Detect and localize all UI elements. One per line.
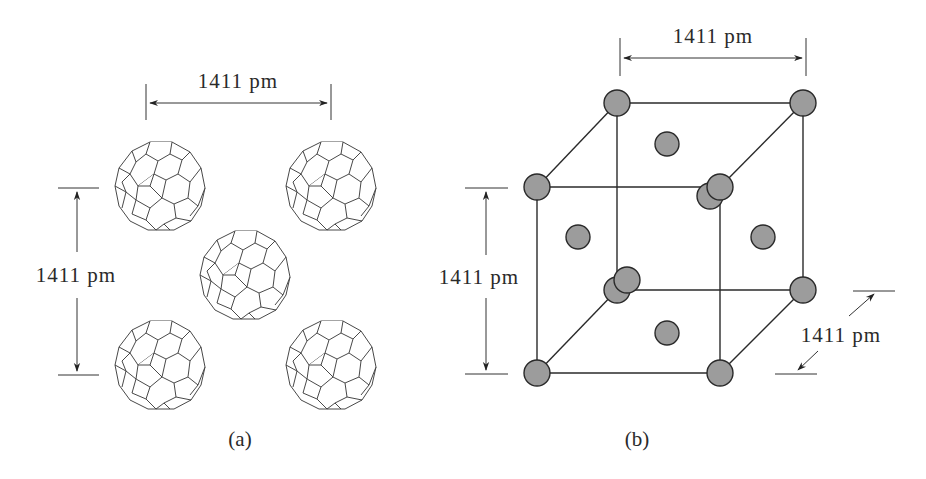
panel-a-top-dimension-label: 1411 pm <box>198 69 278 93</box>
panel-b-top-dimension: 1411 pm <box>620 24 806 76</box>
atom-front-top-left <box>524 174 550 200</box>
atom-front-bottom-right <box>707 360 733 386</box>
panel-b-left-dimension-label: 1411 pm <box>439 265 519 289</box>
atom-front-bottom-left <box>524 360 550 386</box>
panel-b-top-dimension-label: 1411 pm <box>673 24 753 48</box>
panel-a: 1411 pm 1411 pm (a) <box>36 69 376 451</box>
panel-b-depth-dimension: 1411 pm <box>775 291 895 374</box>
panel-a-left-dimension: 1411 pm <box>36 188 116 375</box>
atom-front-top-right <box>707 174 733 200</box>
atom-face-right <box>751 225 775 249</box>
atom-back-top-right <box>790 90 816 116</box>
atom-face-left <box>566 225 590 249</box>
buckyball-center <box>200 231 290 319</box>
buckyball-top-right <box>286 142 376 230</box>
figure-canvas: 1411 pm 1411 pm (a) 1411 pm <box>0 0 926 479</box>
panel-a-left-dimension-label: 1411 pm <box>36 263 116 287</box>
panel-b-left-dimension: 1411 pm <box>439 188 519 374</box>
atom-back-bottom-right <box>790 277 816 303</box>
buckyball-top-left <box>115 142 205 230</box>
buckyball-bottom-left <box>115 321 205 409</box>
atom-face-front <box>614 267 640 293</box>
panel-b-caption: (b) <box>625 427 650 451</box>
panel-a-caption: (a) <box>228 427 251 451</box>
atom-face-top <box>655 132 679 156</box>
panel-a-top-dimension: 1411 pm <box>146 69 331 120</box>
buckyball-bottom-right <box>286 321 376 409</box>
atom-face-bottom <box>655 321 679 345</box>
panel-b-depth-dimension-label: 1411 pm <box>801 323 881 347</box>
atom-back-top-left <box>604 90 630 116</box>
panel-b: 1411 pm 1411 pm 1411 pm <box>439 24 895 451</box>
